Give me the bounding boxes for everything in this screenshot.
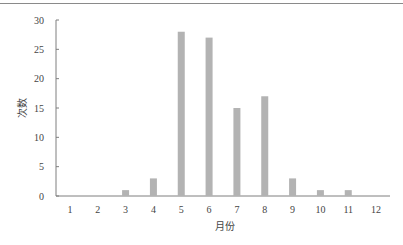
bar xyxy=(150,178,157,196)
x-tick-label: 2 xyxy=(95,204,100,215)
x-tick-label: 11 xyxy=(343,204,353,215)
y-axis: 051015202530 xyxy=(34,15,59,202)
bars xyxy=(122,32,352,196)
x-tick-label: 8 xyxy=(262,204,267,215)
x-tick-label: 9 xyxy=(290,204,295,215)
y-tick-label: 5 xyxy=(39,161,44,172)
bar xyxy=(317,190,324,196)
x-axis-title: 月份 xyxy=(215,221,235,232)
y-tick-label: 30 xyxy=(34,15,44,26)
y-tick-label: 25 xyxy=(34,44,44,55)
bar-chart: 051015202530 123456789101112 次数 月份 xyxy=(0,0,403,245)
y-tick-label: 0 xyxy=(39,191,44,202)
bar xyxy=(289,178,296,196)
x-tick-label: 12 xyxy=(371,204,381,215)
y-tick-label: 15 xyxy=(34,103,44,114)
y-tick-label: 20 xyxy=(34,73,44,84)
x-tick-label: 10 xyxy=(315,204,325,215)
bar xyxy=(122,190,129,196)
x-tick-label: 7 xyxy=(234,204,239,215)
x-tick-label: 6 xyxy=(207,204,212,215)
bar xyxy=(345,190,352,196)
y-tick-label: 10 xyxy=(34,132,44,143)
bar xyxy=(206,38,213,196)
x-tick-label: 3 xyxy=(123,204,128,215)
x-tick-label: 5 xyxy=(179,204,184,215)
x-tick-label: 4 xyxy=(151,204,156,215)
y-axis-title: 次数 xyxy=(16,98,28,118)
bar xyxy=(178,32,185,196)
bar xyxy=(233,108,240,196)
x-tick-label: 1 xyxy=(67,204,72,215)
bar xyxy=(261,96,268,196)
x-axis: 123456789101112 xyxy=(56,196,390,215)
